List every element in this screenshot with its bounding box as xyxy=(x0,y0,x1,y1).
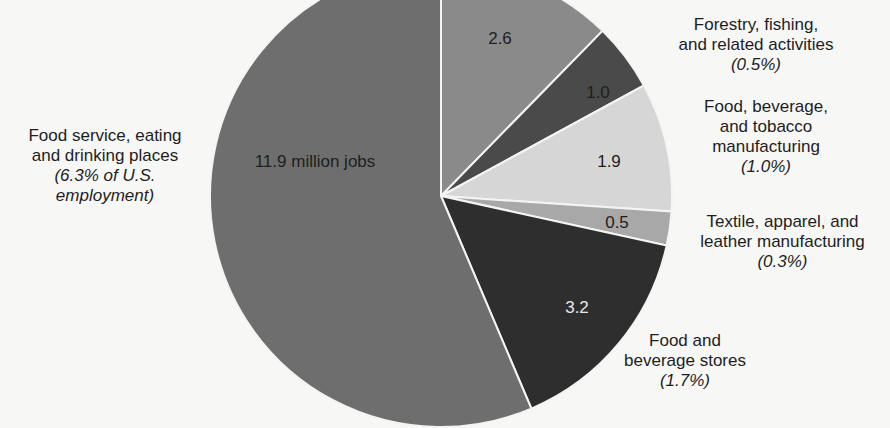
slice-value-forestry: 1.0 xyxy=(586,83,610,102)
label-forestry: Forestry, fishing, and related activitie… xyxy=(636,15,876,75)
label-food-service: Food service, eating and drinking places… xyxy=(0,126,210,206)
slice-value-food-service: 11.9 million jobs xyxy=(255,152,376,171)
slice-value-textile: 0.5 xyxy=(605,213,629,232)
label-food-stores: Food and beverage stores (1.7%) xyxy=(595,331,775,391)
slice-value-food-stores: 3.2 xyxy=(565,298,589,317)
label-food-manufacturing: Food, beverage, and tobacco manufacturin… xyxy=(676,97,856,177)
label-textile: Textile, apparel, and leather manufactur… xyxy=(675,212,890,272)
slice-value-food-manufacturing: 1.9 xyxy=(597,152,621,171)
slice-value-agriculture: 2.6 xyxy=(488,29,512,48)
